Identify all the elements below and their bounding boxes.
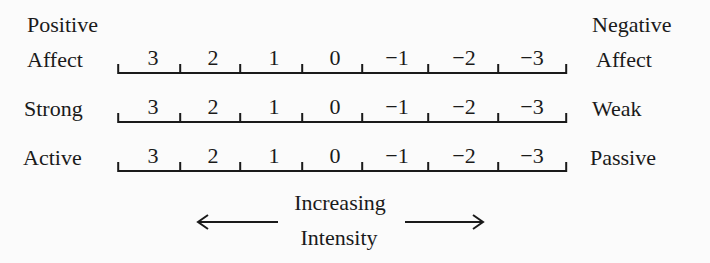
tick [301,64,303,74]
left-label: Active [23,147,82,169]
scale-line: 3 2 1 0 −1 −2 −3 [118,109,566,123]
scale-value: −1 [385,96,408,118]
tick [565,113,567,123]
scale-value: −3 [520,47,543,69]
scale-value: 3 [148,96,159,118]
scale-baseline [118,121,566,123]
tick [497,113,499,123]
left-label-line2: Affect [27,49,83,71]
right-label-line1: Negative [592,14,671,36]
scale-value: −1 [385,47,408,69]
tick [497,162,499,172]
scale-value: −2 [452,47,475,69]
tick [239,162,241,172]
left-label-line1: Positive [27,14,98,36]
scale-value: −1 [385,145,408,167]
scale-value: 0 [330,145,341,167]
tick [565,64,567,74]
scale-value: 2 [208,47,219,69]
scale-line: 3 2 1 0 −1 −2 −3 [118,158,566,172]
intensity-line1: Increasing [294,192,386,214]
intensity-line2: Intensity [301,227,378,249]
tick [117,162,119,172]
left-label: Strong [24,98,83,120]
right-label: Weak [592,98,642,120]
scale-baseline [118,170,566,172]
tick [117,64,119,74]
tick [301,162,303,172]
scale-value: 3 [148,47,159,69]
scale-value: −3 [520,145,543,167]
scale-value: 1 [269,145,280,167]
scale-value: 0 [330,47,341,69]
scale-value: −2 [452,96,475,118]
tick [179,162,181,172]
scale-value: 2 [208,96,219,118]
tick [361,64,363,74]
arrow-right-icon [405,221,483,223]
tick [361,162,363,172]
right-label: Passive [590,147,656,169]
tick [565,162,567,172]
right-label-line2: Affect [596,49,652,71]
scale-baseline [118,72,566,74]
scale-value: 0 [330,96,341,118]
tick [239,64,241,74]
tick [117,113,119,123]
scale-value: 2 [208,145,219,167]
tick [427,162,429,172]
tick [427,113,429,123]
tick [497,64,499,74]
arrow-left-icon [198,221,278,223]
scale-value: 3 [148,145,159,167]
tick [361,113,363,123]
scale-value: 1 [269,96,280,118]
scale-value: −3 [520,96,543,118]
tick [179,64,181,74]
tick [239,113,241,123]
scale-value: −2 [452,145,475,167]
tick [301,113,303,123]
scale-value: 1 [269,47,280,69]
tick [427,64,429,74]
scale-line: 3 2 1 0 −1 −2 −3 [118,60,566,74]
tick [179,113,181,123]
